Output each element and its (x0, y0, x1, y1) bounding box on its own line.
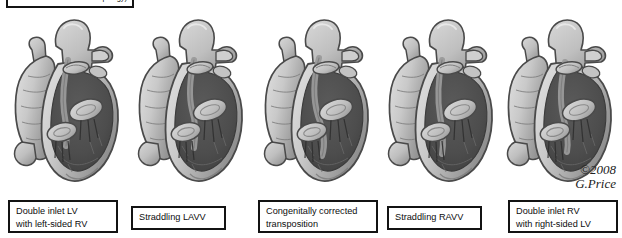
top-caption-box: univentricular ventricular topology) (6, 0, 134, 8)
heart-cross-section-illustration (6, 16, 130, 192)
panel-label-1-line-2: with left-sided RV (16, 218, 110, 231)
panel-label-4: Straddling RAVV (387, 206, 482, 230)
heart-cross-section-illustration (130, 16, 254, 192)
heart-panel-3 (256, 16, 380, 192)
panel-label-4-line-1: Straddling RAVV (395, 211, 474, 224)
panel-label-3-line-1: Congenitally corrected (266, 205, 370, 218)
panel-label-1: Double inlet LV with left-sided RV (8, 200, 118, 233)
panel-label-1-line-1: Double inlet LV (16, 205, 110, 218)
heart-panel-2 (130, 16, 254, 192)
panel-label-2: Straddling LAVV (131, 206, 226, 230)
heart-panel-row (0, 16, 622, 192)
heart-cross-section-illustration (380, 16, 504, 192)
panel-label-5-line-1: Double inlet RV (516, 205, 610, 218)
panel-label-5: Double inlet RV with right-sided LV (508, 200, 618, 233)
credit-year: ©2008 (575, 163, 616, 177)
panel-label-3-line-2: transposition (266, 218, 370, 231)
panel-label-5-line-2: with right-sided LV (516, 218, 610, 231)
copyright-credit: ©2008 G.Price (575, 163, 616, 191)
heart-panel-4 (380, 16, 504, 192)
figure-root: univentricular ventricular topology) (0, 0, 622, 238)
heart-panel-1 (6, 16, 130, 192)
credit-author: G.Price (575, 177, 616, 191)
heart-cross-section-illustration (256, 16, 380, 192)
panel-label-2-line-1: Straddling LAVV (139, 211, 218, 224)
panel-label-3: Congenitally corrected transposition (258, 200, 378, 233)
